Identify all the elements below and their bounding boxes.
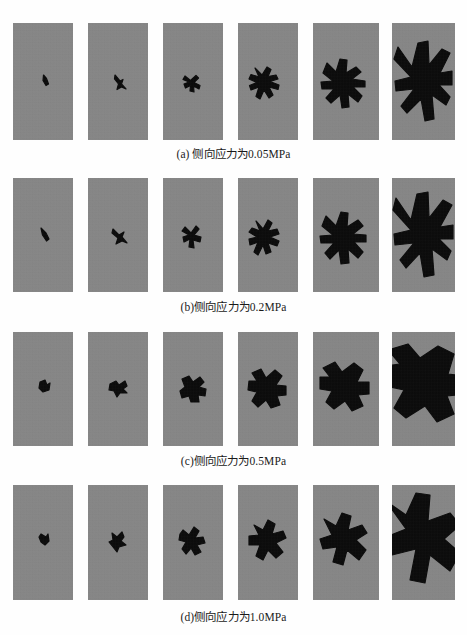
crack-shape [109, 532, 126, 552]
crack-shape [394, 41, 452, 121]
crack-pattern-d-2 [88, 485, 148, 600]
figure-container: (a) 侧向应力为0.05MPa(b)侧向应力为0.2MPa(c)侧向应力为0.… [0, 0, 467, 635]
crack-pattern-b-3 [163, 178, 223, 292]
specimen-panel-a-5 [313, 23, 379, 140]
crack-pattern-c-2 [88, 332, 148, 446]
specimen-panel-a-2 [88, 23, 148, 140]
specimen-panel-d-6 [392, 485, 455, 600]
crack-shape [321, 59, 365, 108]
crack-pattern-d-5 [313, 485, 379, 600]
specimen-panel-d-3 [163, 485, 223, 600]
crack-pattern-b-5 [313, 178, 379, 292]
crack-pattern-b-6 [392, 178, 455, 292]
crack-pattern-b-4 [238, 178, 298, 292]
crack-shape [182, 226, 201, 248]
crack-pattern-a-5 [313, 23, 379, 140]
crack-shape [115, 75, 127, 90]
crack-pattern-a-1 [13, 23, 73, 140]
specimen-panel-c-6 [392, 332, 455, 446]
crack-shape [109, 381, 127, 397]
crack-shape [320, 513, 367, 565]
crack-shape [183, 76, 200, 93]
specimen-panel-b-1 [13, 178, 73, 292]
crack-pattern-a-2 [88, 23, 148, 140]
subfigure-caption-a: (a) 侧向应力为0.05MPa [0, 145, 467, 161]
specimen-panel-a-3 [163, 23, 223, 140]
specimen-panel-a-4 [238, 23, 298, 140]
crack-pattern-c-4 [238, 332, 298, 446]
specimen-panel-c-3 [163, 332, 223, 446]
crack-shape [392, 344, 455, 422]
specimen-panel-b-4 [238, 178, 298, 292]
specimen-panel-d-2 [88, 485, 148, 600]
specimen-panel-b-5 [313, 178, 379, 292]
specimen-panel-a-6 [392, 23, 455, 140]
crack-shape [249, 220, 279, 255]
subfigure-caption-c: (c)侧向应力为0.5MPa [0, 452, 467, 468]
crack-shape [180, 376, 206, 402]
crack-pattern-c-5 [313, 332, 379, 446]
crack-shape [39, 380, 50, 392]
specimen-panel-c-4 [238, 332, 298, 446]
crack-shape [320, 212, 366, 264]
crack-shape [249, 520, 286, 560]
specimen-panel-c-1 [13, 332, 73, 446]
crack-shape [39, 534, 49, 545]
crack-pattern-d-3 [163, 485, 223, 600]
specimen-panel-c-5 [313, 332, 379, 446]
crack-pattern-d-6 [392, 485, 455, 600]
crack-shape [320, 362, 369, 411]
crack-pattern-c-6 [392, 332, 455, 446]
crack-pattern-b-2 [88, 178, 148, 292]
crack-shape [43, 75, 49, 86]
subfigure-caption-b: (b)侧向应力为0.2MPa [0, 298, 467, 314]
crack-pattern-a-4 [238, 23, 298, 140]
specimen-panel-d-1 [13, 485, 73, 600]
crack-shape [392, 493, 455, 583]
crack-pattern-b-1 [13, 178, 73, 292]
specimen-panel-d-5 [313, 485, 379, 600]
crack-shape [41, 228, 49, 241]
crack-shape [393, 192, 453, 277]
specimen-panel-b-2 [88, 178, 148, 292]
crack-pattern-a-6 [392, 23, 455, 140]
crack-shape [248, 369, 286, 408]
crack-shape [249, 67, 279, 99]
specimen-panel-d-4 [238, 485, 298, 600]
specimen-panel-a-1 [13, 23, 73, 140]
crack-pattern-a-3 [163, 23, 223, 140]
specimen-panel-b-3 [163, 178, 223, 292]
crack-pattern-d-4 [238, 485, 298, 600]
crack-shape [179, 527, 205, 555]
crack-pattern-c-3 [163, 332, 223, 446]
specimen-panel-b-6 [392, 178, 455, 292]
subfigure-caption-d: (d)侧向应力为1.0MPa [0, 608, 467, 624]
crack-pattern-d-1 [13, 485, 73, 600]
crack-pattern-c-1 [13, 332, 73, 446]
specimen-panel-c-2 [88, 332, 148, 446]
crack-shape [112, 229, 127, 244]
